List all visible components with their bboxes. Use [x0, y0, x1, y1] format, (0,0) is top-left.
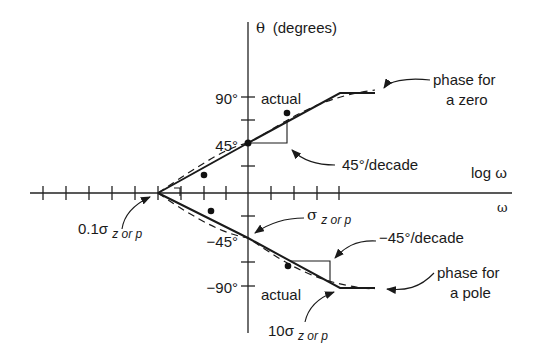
subscript: z or p: [297, 329, 328, 343]
phase-zero-label-line1: phase for: [433, 71, 496, 88]
degrees-unit: (degrees): [273, 19, 337, 36]
slope-zero-leader-arrow: [292, 150, 335, 165]
sigma-symbol: σ: [307, 206, 317, 224]
zero-actual-point-low: [201, 172, 208, 179]
zero-actual-point-high: [284, 110, 291, 117]
break-high-label: 10σ z or p: [268, 322, 328, 343]
phase-pole-label-line1: phase for: [437, 264, 500, 281]
subscript: z or p: [320, 213, 351, 227]
actual-label-zero: actual: [261, 90, 301, 107]
y-tick-label-minus-45: −45°: [207, 233, 238, 250]
break-low-leader-arrow: [122, 197, 150, 229]
break-high-leader-arrow: [305, 292, 334, 322]
slope-pole-leader-arrow: [335, 241, 376, 258]
x-axis-label-log-omega: log ω: [471, 164, 507, 181]
break-high-prefix: 10σ: [268, 322, 295, 339]
break-mid-leader-arrow: [255, 218, 304, 233]
small-origin-mark: [174, 188, 180, 196]
theta-symbol: θ: [256, 19, 265, 37]
y-tick-label-minus-90: −90°: [207, 279, 238, 296]
slope-zero-label: 45°/decade: [342, 156, 418, 173]
slope-pole-label: −45°/decade: [379, 229, 464, 246]
phase-zero-label-line2: a zero: [446, 91, 488, 108]
y-tick-label-90: 90°: [215, 90, 238, 107]
pole-actual-point-low: [208, 208, 215, 215]
actual-label-pole: actual: [261, 286, 301, 303]
x-axis-label-omega: ω: [497, 200, 508, 215]
pole-actual-curve: [158, 193, 375, 289]
break-point-zero: [245, 140, 252, 147]
break-low-label: 0.1σ z or p: [78, 220, 142, 241]
subscript: z or p: [111, 227, 142, 241]
pole-asymptote-line: [158, 193, 375, 288]
phase-pole-leader-arrow: [387, 273, 434, 290]
pole-actual-point-high: [285, 263, 292, 270]
phase-pole-label-line2: a pole: [450, 284, 491, 301]
break-low-prefix: 0.1σ: [78, 220, 109, 237]
break-mid-label: σ z or p: [307, 206, 352, 227]
phase-zero-leader-arrow: [384, 79, 430, 88]
y-axis-label: θ (degrees): [256, 19, 337, 37]
bode-phase-diagram: 90° 45° −45° −90° θ (degrees) log ω ω ac…: [0, 0, 542, 361]
